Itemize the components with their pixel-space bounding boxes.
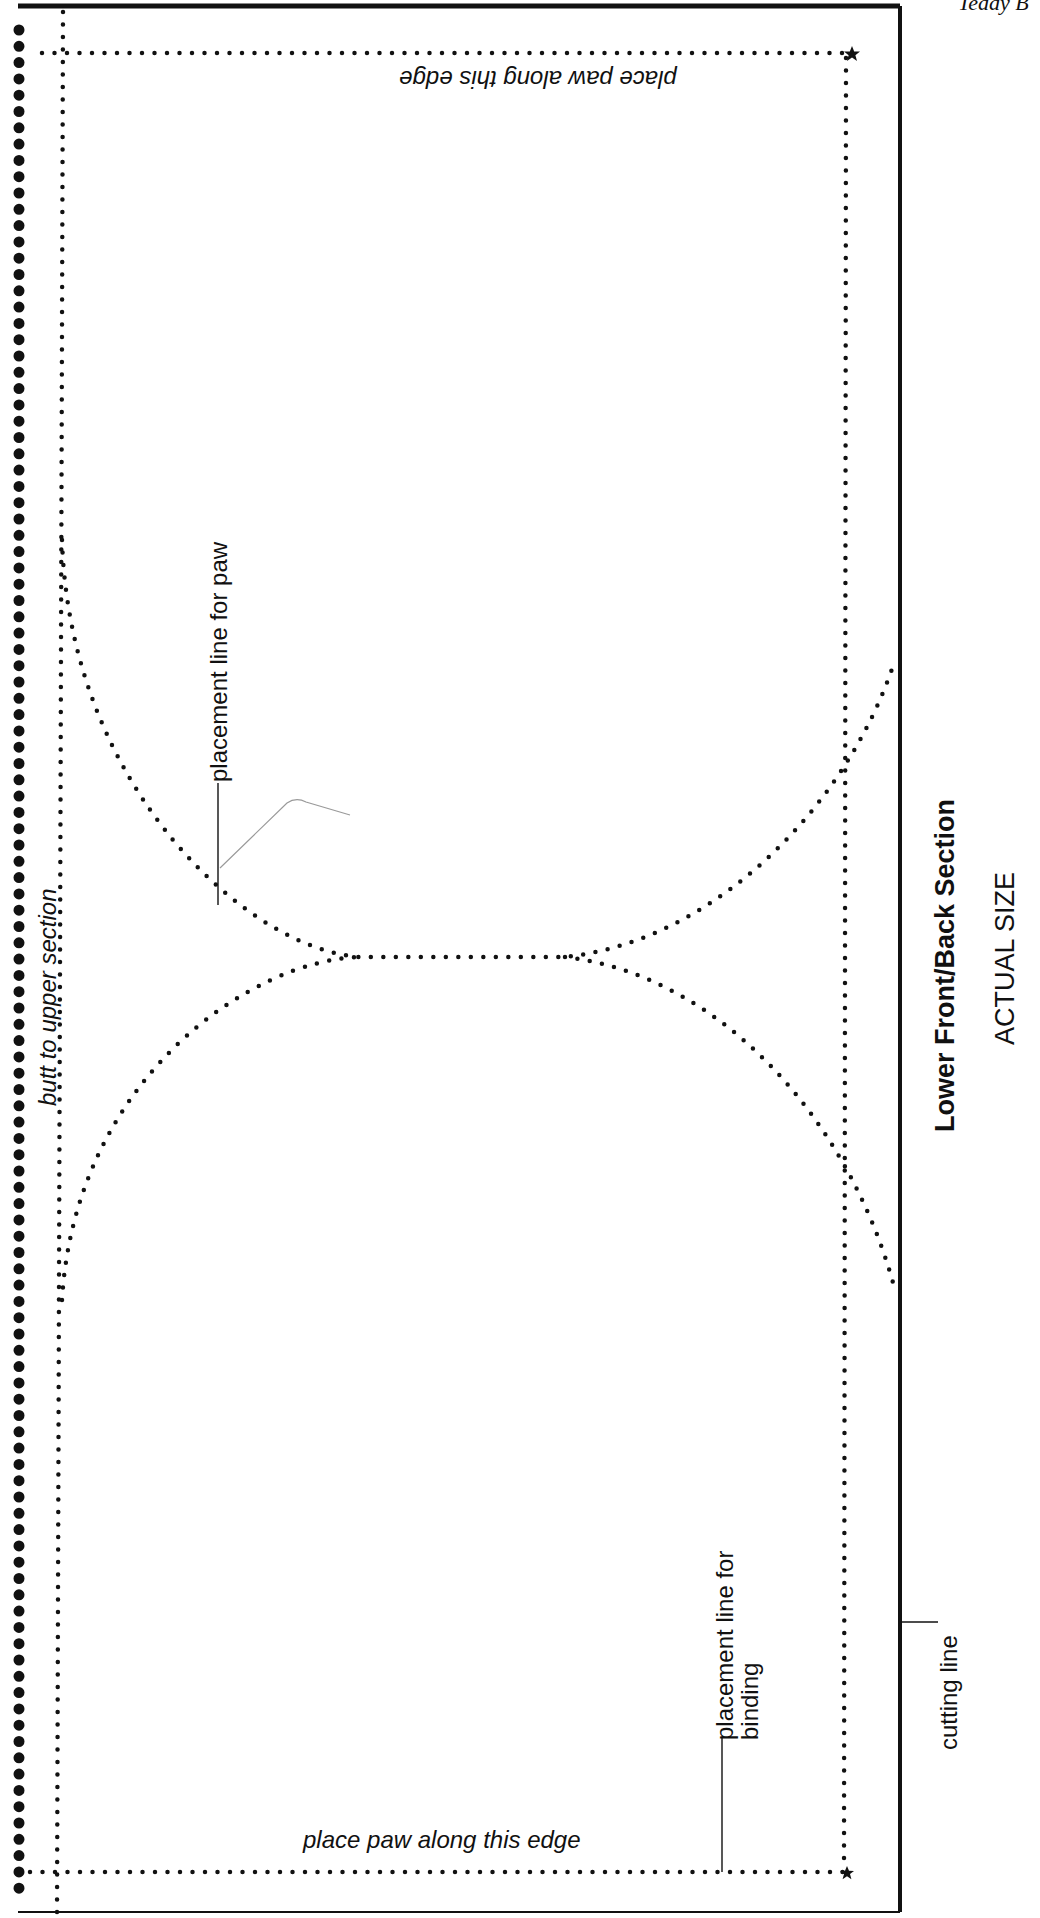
top-edge-label: place paw along this edge — [358, 65, 718, 93]
cutting-line-label: cutting line — [935, 1635, 963, 1750]
binding-placement-label: placement line for binding — [712, 1551, 762, 1740]
left-edge-label: butt to upper section — [34, 889, 62, 1106]
seam-lines — [30, 12, 895, 1915]
pattern-subtitle: ACTUAL SIZE — [990, 872, 1021, 1045]
bottom-edge-label: place paw along this edge — [303, 1826, 581, 1854]
pattern-sheet — [0, 0, 1040, 1918]
binding-placement-label-line2: binding — [737, 1551, 762, 1740]
pattern-title: Lower Front/Back Section — [930, 799, 961, 1132]
paw-placement-label: placement line for paw — [205, 542, 233, 782]
binding-placement-label-line1: placement line for — [712, 1551, 737, 1740]
pencil-mark — [220, 800, 350, 868]
